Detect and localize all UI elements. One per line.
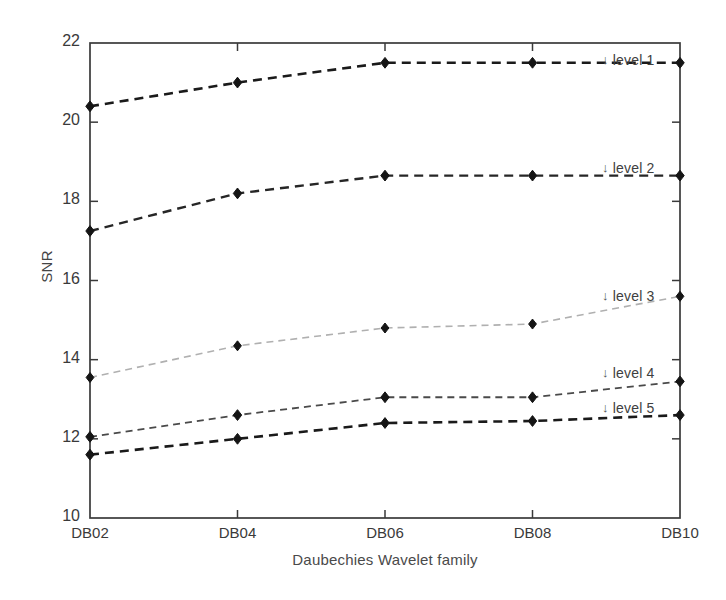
series-line-level-1: [90, 63, 680, 107]
arrow-down-icon: ↓: [602, 160, 609, 175]
x-tick-label: DB04: [203, 524, 273, 541]
data-point-marker: [233, 433, 241, 444]
series-annotation-label: level 2: [613, 160, 655, 176]
data-point-marker: [233, 188, 241, 199]
series-markers: [86, 57, 684, 460]
series-annotation-level-3: ↓level 3: [602, 288, 655, 304]
arrow-down-icon: ↓: [602, 288, 609, 303]
data-point-marker: [528, 416, 536, 427]
arrow-down-icon: ↓: [602, 365, 609, 380]
data-point-marker: [381, 170, 389, 181]
y-tick-label: 10: [40, 507, 80, 525]
data-point-marker: [86, 372, 94, 382]
arrow-down-icon: ↓: [602, 400, 609, 415]
data-point-marker: [381, 418, 389, 429]
data-point-marker: [676, 376, 684, 387]
data-point-marker: [233, 410, 241, 421]
data-point-marker: [381, 323, 389, 333]
data-point-marker: [86, 101, 94, 112]
series-annotation-level-4: ↓level 4: [602, 365, 655, 381]
data-point-marker: [233, 77, 241, 88]
data-point-marker: [86, 431, 94, 442]
axes-frame: [90, 43, 680, 518]
data-point-marker: [86, 449, 94, 460]
arrow-down-icon: ↓: [602, 52, 609, 67]
chart-figure: SNR Daubechies Wavelet family 2220181614…: [0, 0, 726, 600]
data-point-marker: [528, 392, 536, 403]
y-tick-label: 16: [40, 270, 80, 288]
series-annotation-label: level 1: [613, 52, 655, 68]
data-point-marker: [676, 291, 684, 301]
x-axis-title: Daubechies Wavelet family: [190, 551, 580, 568]
data-point-marker: [381, 392, 389, 403]
data-point-marker: [234, 341, 242, 351]
x-axis-ticks: [238, 43, 533, 518]
y-tick-label: 12: [40, 428, 80, 446]
data-point-marker: [676, 170, 684, 181]
x-tick-label: DB08: [498, 524, 568, 541]
data-point-marker: [381, 57, 389, 68]
series-line-level-2: [90, 176, 680, 231]
y-tick-label: 20: [40, 111, 80, 129]
series-annotation-level-2: ↓level 2: [602, 160, 655, 176]
x-tick-label: DB06: [350, 524, 420, 541]
axes-box: [90, 43, 680, 518]
y-tick-label: 22: [40, 32, 80, 50]
data-point-marker: [676, 410, 684, 421]
data-point-marker: [676, 57, 684, 68]
y-tick-label: 18: [40, 190, 80, 208]
series-annotation-level-1: ↓level 1: [602, 52, 655, 68]
data-point-marker: [528, 57, 536, 68]
y-tick-label: 14: [40, 349, 80, 367]
data-point-marker: [528, 170, 536, 181]
series-line-level-3: [90, 296, 680, 377]
data-point-marker: [86, 226, 94, 237]
series-annotation-label: level 4: [613, 365, 655, 381]
y-axis-title: SNR: [38, 237, 55, 297]
x-tick-label: DB02: [55, 524, 125, 541]
series-annotation-label: level 5: [613, 400, 655, 416]
x-tick-label: DB10: [645, 524, 715, 541]
data-point-marker: [529, 319, 537, 329]
series-annotation-level-5: ↓level 5: [602, 400, 655, 416]
series-annotation-label: level 3: [613, 288, 655, 304]
